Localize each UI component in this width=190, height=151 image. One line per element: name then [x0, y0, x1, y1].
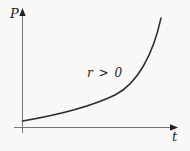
rate-annotation: r > 0	[87, 67, 123, 79]
y-axis-arrowhead-icon	[19, 8, 25, 16]
exponential-growth-figure: P t r > 0	[0, 0, 190, 151]
y-axis-label: P	[10, 7, 19, 20]
x-axis-label: t	[172, 130, 177, 143]
